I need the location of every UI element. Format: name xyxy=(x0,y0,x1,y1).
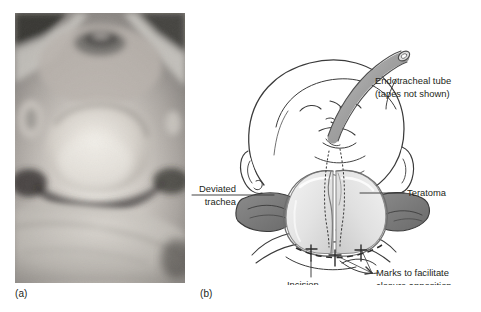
leader-marks-arrowhead xyxy=(366,267,372,273)
label-marks-line1: Marks to facilitate xyxy=(376,267,449,278)
label-incision: Incision xyxy=(287,279,319,285)
label-deviated-trachea-line2: trachea xyxy=(205,196,237,207)
neck-fold-right-upper xyxy=(342,259,376,265)
panel-a-photograph xyxy=(15,13,185,283)
neck-fold-lower xyxy=(286,257,356,270)
label-marks-line2: closure apposition xyxy=(376,280,452,285)
label-endotracheal-tube-line1: Endotracheal tube xyxy=(375,75,451,86)
leader-marks-arrowhead2 xyxy=(365,273,372,274)
teratoma-mass xyxy=(284,170,388,256)
photo-grain-overlay xyxy=(15,13,185,283)
leader-marks-left xyxy=(335,255,372,273)
panel-b-caption: (b) xyxy=(200,288,213,299)
label-endotracheal-tube-line2: (tapes not shown) xyxy=(375,88,450,99)
figure-container: (a) xyxy=(0,0,481,312)
panel-a-caption: (a) xyxy=(15,288,28,299)
panel-b-diagram: Endotracheal tube (tapes not shown) Devi… xyxy=(190,5,481,285)
label-teratoma: Teratoma xyxy=(407,187,447,198)
label-deviated-trachea-line1: Deviated xyxy=(199,183,236,194)
